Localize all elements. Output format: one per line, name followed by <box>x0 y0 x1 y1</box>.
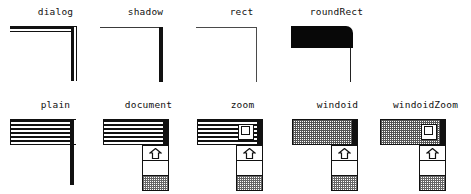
titlebar-dot-pattern <box>293 120 352 144</box>
window-frame-windoidzoom <box>378 116 471 189</box>
specimen-roundrect[interactable]: roundRect <box>289 6 384 96</box>
specimen-rect[interactable]: rect <box>194 6 289 96</box>
window-frame-roundrect <box>289 23 384 96</box>
window-frame-document <box>101 116 196 189</box>
document-right-edge <box>163 119 169 145</box>
titlebar-windoid[interactable] <box>293 120 352 144</box>
rect-top-rule <box>196 27 257 28</box>
scrollbar-thumb[interactable] <box>143 161 168 176</box>
specimen-label-plain: plain <box>8 99 103 111</box>
window-styles-figure: dialog shadow rect roundRect plain <box>0 0 471 194</box>
roundrect-right-rule <box>350 48 351 82</box>
scroll-up-arrow-icon <box>426 148 439 159</box>
vertical-scrollbar[interactable] <box>236 145 263 191</box>
specimen-document[interactable]: document <box>101 99 196 189</box>
dialog-right-inner-rule <box>76 26 77 81</box>
specimen-windoidzoom[interactable]: windoidZoom <box>378 99 471 189</box>
scrollbar-up-button[interactable] <box>420 146 445 161</box>
zoom-box-icon[interactable] <box>238 124 254 140</box>
specimen-label-rect: rect <box>194 6 289 18</box>
roundrect-filled-slab <box>291 26 353 48</box>
specimen-label-roundrect: roundRect <box>289 6 384 18</box>
titlebar-document[interactable] <box>104 120 163 144</box>
scroll-up-arrow-icon <box>338 148 351 159</box>
window-frame-plain <box>8 116 103 189</box>
plain-titlebar-bottom-rule <box>10 144 76 145</box>
window-frame-windoid <box>290 116 385 189</box>
window-frame-rect <box>194 23 289 96</box>
scrollbar-up-button[interactable] <box>237 146 262 161</box>
scroll-up-arrow-icon <box>243 148 256 159</box>
titlebar-zoom[interactable] <box>198 120 257 144</box>
specimen-label-document: document <box>101 99 196 111</box>
scrollbar-thumb[interactable] <box>237 161 262 176</box>
titlebar-windoidzoom[interactable] <box>381 120 440 144</box>
scrollbar-up-button[interactable] <box>332 146 357 161</box>
vertical-scrollbar[interactable] <box>419 145 446 191</box>
dialog-top-outer-rule <box>10 26 74 29</box>
specimen-label-windoid: windoid <box>290 99 385 111</box>
specimen-label-shadow: shadow <box>98 6 193 18</box>
zoom-box-icon[interactable] <box>421 124 437 140</box>
titlebar-plain[interactable] <box>11 120 70 144</box>
shadow-top-rule <box>100 27 163 28</box>
zoom-box-inner-square <box>424 126 433 135</box>
specimen-label-windoidzoom: windoidZoom <box>378 99 471 111</box>
window-frame-zoom <box>195 116 290 189</box>
dialog-top-inner-rule <box>10 31 74 32</box>
scrollbar-track[interactable] <box>237 176 262 190</box>
vertical-scrollbar[interactable] <box>142 145 169 191</box>
windoidzoom-right-edge <box>440 119 446 145</box>
scrollbar-track[interactable] <box>332 176 357 190</box>
scrollbar-track[interactable] <box>143 176 168 190</box>
specimen-label-dialog: dialog <box>8 6 103 18</box>
scrollbar-thumb[interactable] <box>332 161 357 176</box>
scrollbar-track[interactable] <box>420 176 445 190</box>
windoid-right-edge <box>352 119 358 145</box>
plain-right-edge <box>70 119 74 185</box>
scrollbar-thumb[interactable] <box>420 161 445 176</box>
titlebar-stripe-pattern <box>11 120 70 144</box>
specimen-windoid[interactable]: windoid <box>290 99 385 189</box>
specimen-label-zoom: zoom <box>195 99 290 111</box>
scroll-up-arrow-icon <box>149 148 162 159</box>
zoom-box-inner-square <box>241 126 250 135</box>
zoom-right-edge <box>257 119 263 145</box>
scrollbar-up-button[interactable] <box>143 146 168 161</box>
specimen-plain[interactable]: plain <box>8 99 103 189</box>
window-frame-dialog <box>8 23 103 96</box>
specimen-shadow[interactable]: shadow <box>98 6 193 96</box>
vertical-scrollbar[interactable] <box>331 145 358 191</box>
dialog-right-outer-rule <box>71 26 74 81</box>
shadow-right-rule <box>159 27 163 82</box>
window-frame-shadow <box>98 23 193 96</box>
titlebar-stripe-pattern <box>104 120 163 144</box>
rect-right-rule <box>256 27 257 82</box>
specimen-dialog[interactable]: dialog <box>8 6 103 96</box>
specimen-zoom[interactable]: zoom <box>195 99 290 189</box>
